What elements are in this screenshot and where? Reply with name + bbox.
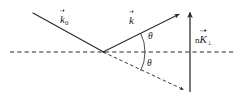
reciprocal-vector-base: K	[200, 33, 207, 45]
scattered-vector-glyph-stack: k	[129, 15, 134, 26]
diagram-canvas	[0, 0, 243, 101]
scattered-vector-label: k	[129, 15, 134, 26]
incident-vector-label: k 0	[60, 14, 68, 27]
scattered-vector-base: k	[129, 14, 134, 26]
reciprocal-vector-glyph-stack: K	[200, 34, 207, 45]
incident-vector-base: k	[60, 13, 65, 25]
mirror-ray-dashed-arrow	[103, 52, 184, 90]
incident-vector-subscript: 0	[65, 19, 68, 26]
reciprocal-vector-subscript: ⊥	[207, 40, 212, 46]
reciprocal-vector-label: n K ⊥	[195, 34, 212, 46]
incident-vector-glyph-stack: k	[60, 14, 65, 25]
wave-vector-scattering-diagram: k 0 k θ θ n K ⊥	[0, 0, 243, 101]
angle-label-upper: θ	[148, 32, 153, 42]
angle-label-lower: θ	[147, 59, 152, 69]
incident-wave-vector-line	[33, 13, 105, 53]
